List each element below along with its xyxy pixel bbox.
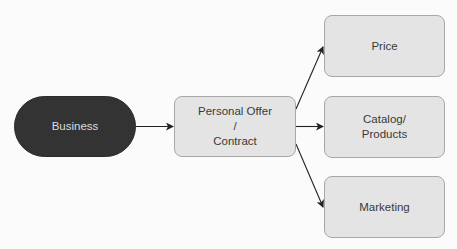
- personal-offer-contract-label: Personal Offer / Contract: [198, 104, 272, 149]
- marketing-label: Marketing: [359, 200, 410, 215]
- edge-offer-to-marketing: [296, 144, 323, 207]
- price-label: Price: [371, 39, 397, 54]
- marketing-node[interactable]: Marketing: [324, 176, 445, 238]
- business-label: Business: [52, 119, 99, 134]
- edge-offer-to-price: [296, 47, 323, 109]
- price-node[interactable]: Price: [324, 15, 445, 77]
- personal-offer-contract-node[interactable]: Personal Offer / Contract: [174, 96, 296, 157]
- business-node[interactable]: Business: [14, 96, 136, 157]
- diagram-canvas: Business Personal Offer / Contract Price…: [0, 0, 457, 249]
- catalog-products-node[interactable]: Catalog/ Products: [324, 96, 445, 158]
- catalog-products-label: Catalog/ Products: [362, 112, 407, 142]
